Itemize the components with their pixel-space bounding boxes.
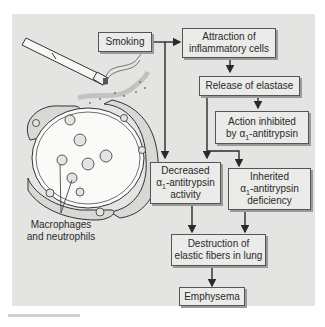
node-inherited-line3: deficiency bbox=[247, 195, 291, 207]
node-decreased-line1: Decreased bbox=[161, 165, 209, 177]
node-inhibited: Action inhibited by α1-antitrypsin bbox=[215, 111, 309, 144]
macrophages-callout: Macrophages and neutrophils bbox=[16, 219, 106, 243]
node-emphysema-label: Emphysema bbox=[184, 291, 240, 303]
node-inherited-line1: Inherited bbox=[250, 171, 289, 183]
node-destruction: Destruction of elastic fibers in lung bbox=[171, 234, 266, 266]
node-inherited: Inherited α1-antitrypsin deficiency bbox=[228, 168, 311, 210]
cigarette-icon bbox=[22, 38, 108, 85]
node-decreased-line3: activity bbox=[170, 189, 201, 201]
node-inhibited-line2: by α1-antitrypsin bbox=[226, 128, 298, 140]
node-elastase: Release of elastase bbox=[199, 76, 300, 96]
node-smoking: Smoking bbox=[98, 32, 152, 52]
text: -antitrypsin bbox=[166, 177, 215, 188]
callout-line1: Macrophages bbox=[16, 219, 106, 231]
node-inhibited-line1: Action inhibited bbox=[228, 116, 296, 128]
node-decreased-line2: α1-antitrypsin bbox=[156, 177, 215, 189]
node-attraction-line1: Attraction of bbox=[202, 31, 255, 43]
text: by bbox=[226, 128, 239, 139]
node-elastase-label: Release of elastase bbox=[206, 80, 294, 92]
text: -antitrypsin bbox=[249, 128, 298, 139]
node-smoking-label: Smoking bbox=[106, 36, 145, 48]
callout-line2: and neutrophils bbox=[16, 231, 106, 243]
node-destruction-line1: Destruction of bbox=[188, 238, 250, 250]
node-destruction-line2: elastic fibers in lung bbox=[175, 250, 263, 262]
node-decreased: Decreased α1-antitrypsin activity bbox=[150, 162, 221, 204]
text: -antitrypsin bbox=[250, 183, 299, 194]
node-attraction-line2: inflammatory cells bbox=[189, 43, 269, 55]
node-attraction: Attraction of inflammatory cells bbox=[182, 28, 276, 58]
node-emphysema: Emphysema bbox=[179, 287, 245, 306]
node-inherited-line2: α1-antitrypsin bbox=[240, 183, 299, 195]
